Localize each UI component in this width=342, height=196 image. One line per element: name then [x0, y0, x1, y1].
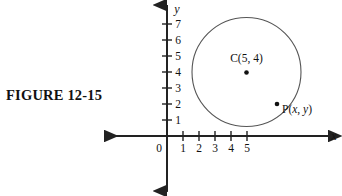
y-axis-label: y — [173, 2, 180, 16]
x-tick-label-3: 3 — [212, 142, 218, 154]
y-tick-label-3: 3 — [175, 82, 181, 94]
y-tick-label-2: 2 — [175, 98, 181, 110]
y-tick-label-6: 6 — [175, 34, 181, 46]
y-tick-label-1: 1 — [175, 114, 181, 126]
center-point-dot — [244, 70, 249, 75]
x-tick-label-1: 1 — [180, 142, 186, 154]
y-tick-label-4: 4 — [175, 66, 181, 78]
y-tick-label-5: 5 — [175, 50, 181, 62]
x-tick-label-5: 5 — [244, 142, 250, 154]
x-axis-label: x — [330, 129, 337, 143]
figure-page: FIGURE 12-15 — [0, 0, 342, 196]
origin-label: 0 — [156, 142, 162, 154]
p-point-label: P(x, y) — [282, 103, 312, 116]
y-tick-label-7: 7 — [175, 18, 181, 30]
x-tick-label-2: 2 — [196, 142, 202, 154]
p-label-prefix: P( — [282, 103, 292, 116]
x-tick-label-4: 4 — [228, 142, 234, 154]
coordinate-plot: 1 2 3 4 5 7 6 5 4 3 2 1 0 y x C(5, 4) P(… — [0, 0, 342, 196]
p-label-suffix: ) — [308, 103, 312, 116]
center-point-label: C(5, 4) — [230, 52, 263, 65]
p-point-dot — [275, 102, 280, 107]
